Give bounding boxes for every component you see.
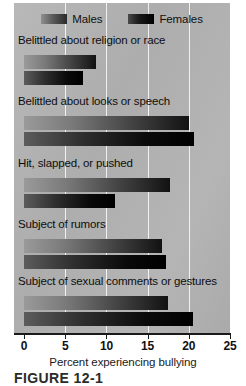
bar-females-0 xyxy=(24,71,83,85)
legend-item-males[interactable]: Males xyxy=(41,13,102,25)
figure-caption: FIGURE 12-1 xyxy=(14,370,103,386)
x-tick-label-0: 0 xyxy=(21,339,27,353)
x-tick-label-20: 20 xyxy=(182,339,195,353)
chart-legend: MalesFemales xyxy=(14,13,230,25)
bar-females-3 xyxy=(24,255,166,269)
category-label-2: Hit, slapped, or pushed xyxy=(18,157,133,169)
legend-item-females[interactable]: Females xyxy=(128,13,202,25)
males-swatch-icon xyxy=(41,14,67,24)
legend-label: Females xyxy=(159,13,202,25)
x-tick-label-5: 5 xyxy=(62,339,68,353)
bar-males-2 xyxy=(24,178,170,192)
x-tick-label-25: 25 xyxy=(224,339,237,353)
gridline-25 xyxy=(230,3,231,333)
legend-label: Males xyxy=(72,13,102,25)
bar-females-2 xyxy=(24,194,115,208)
bar-males-4 xyxy=(24,296,168,310)
bar-males-0 xyxy=(24,55,96,69)
bar-males-1 xyxy=(24,116,189,130)
category-label-0: Belittled about religion or race xyxy=(18,34,165,46)
x-axis-title: Percent experiencing bullying xyxy=(0,356,246,368)
category-label-3: Subject of rumors xyxy=(18,218,106,230)
x-tick-label-15: 15 xyxy=(141,339,154,353)
plot-area: MalesFemales Belittled about religion or… xyxy=(14,3,230,333)
bar-females-4 xyxy=(24,312,193,326)
females-swatch-icon xyxy=(128,14,154,24)
bar-males-3 xyxy=(24,239,162,253)
category-label-1: Belittled about looks or speech xyxy=(18,95,170,107)
bar-females-1 xyxy=(24,132,194,146)
x-tick-label-10: 10 xyxy=(100,339,113,353)
category-label-4: Subject of sexual comments or gestures xyxy=(18,275,217,287)
x-axis-line xyxy=(14,333,231,335)
